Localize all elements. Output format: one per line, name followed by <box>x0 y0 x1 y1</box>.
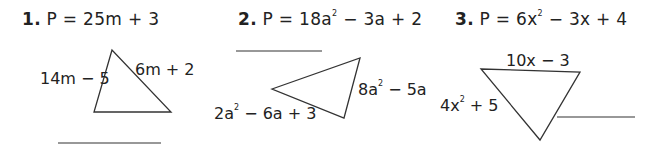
perimeter-formula: P = 6x2 − 3x + 4 <box>480 9 628 29</box>
side-label-top: 10x − 3 <box>506 51 570 70</box>
side-label-right: 6m + 2 <box>135 60 195 79</box>
problem-1-header: 1. P = 25m + 3 <box>22 9 159 29</box>
perimeter-formula: P = 25m + 3 <box>47 9 160 29</box>
problem-number: 2. <box>238 9 257 29</box>
side-label-left: 4x2 + 5 <box>440 96 499 115</box>
problem-number: 1. <box>22 9 41 29</box>
problem-number: 3. <box>455 9 474 29</box>
side-label-left: 14m − 5 <box>40 69 110 88</box>
side-label-bottom: 2a2 − 6a + 3 <box>214 104 316 123</box>
problem-3-header: 3. P = 6x2 − 3x + 4 <box>455 9 627 29</box>
problem-2-header: 2. P = 18a2 − 3a + 2 <box>238 9 422 29</box>
perimeter-formula: P = 18a2 − 3a + 2 <box>263 9 423 29</box>
side-label-right: 8a2 − 5a <box>358 80 427 99</box>
